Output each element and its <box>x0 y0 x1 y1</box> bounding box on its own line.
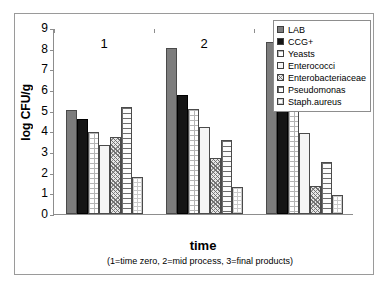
legend-swatch-enterobacteriaceae <box>277 74 284 81</box>
legend-swatch-pseudomonas <box>277 86 284 93</box>
legend-item-ccg[interactable]: CCG+ <box>277 36 366 47</box>
x-axis-caption: (1=time zero, 2=mid process, 3=final pro… <box>35 256 365 266</box>
y-axis-tick-mark <box>50 215 54 216</box>
x-axis-tick-mark <box>54 29 55 33</box>
bar-pseudomonas-1[interactable] <box>121 107 132 214</box>
bar-enterobacteriaceae-2[interactable] <box>210 158 221 214</box>
y-axis-tick-label: 0 <box>41 207 48 221</box>
bar-lab-1[interactable] <box>66 110 77 214</box>
x-axis-title: time <box>53 238 353 253</box>
bar-yeasts-3[interactable] <box>288 95 299 214</box>
bar-staph-aureus-1[interactable] <box>132 177 143 214</box>
bar-enterococci-1[interactable] <box>99 145 110 214</box>
bar-enterobacteriaceae-3[interactable] <box>310 186 321 214</box>
x-axis-tick-label-2: 2 <box>200 36 207 51</box>
legend-label-staph-aureus: Staph.aureus <box>288 97 342 107</box>
bar-enterobacteriaceae-1[interactable] <box>110 137 121 215</box>
legend-label-pseudomonas: Pseudomonas <box>288 85 346 95</box>
legend-item-staph-aureus[interactable]: Staph.aureus <box>277 96 366 107</box>
y-axis-title: log CFU/g <box>19 84 35 141</box>
legend-swatch-lab <box>277 26 284 33</box>
y-axis-tick-label: 4 <box>41 124 48 138</box>
legend-label-enterobacteriaceae: Enterobacteriaceae <box>288 73 366 83</box>
bar-lab-2[interactable] <box>166 48 177 214</box>
bar-yeasts-1[interactable] <box>88 132 99 214</box>
bar-ccg-1[interactable] <box>77 119 88 214</box>
legend-label-enterococci: Enterococci <box>288 61 335 71</box>
y-axis-tick-label: 8 <box>41 42 48 56</box>
bar-pseudomonas-3[interactable] <box>321 162 332 214</box>
y-axis-tick-label: 5 <box>41 104 48 118</box>
x-axis-tick-label-1: 1 <box>100 36 107 51</box>
y-axis-tick-label: 2 <box>41 166 48 180</box>
bar-group-2 <box>166 29 243 214</box>
legend-swatch-staph-aureus <box>277 98 284 105</box>
legend-item-pseudomonas[interactable]: Pseudomonas <box>277 84 366 95</box>
bar-pseudomonas-2[interactable] <box>221 140 232 214</box>
legend-item-yeasts[interactable]: Yeasts <box>277 48 366 59</box>
legend-swatch-yeasts <box>277 50 284 57</box>
legend-label-lab: LAB <box>288 25 305 35</box>
chart-container: log CFU/g 0123456789 123 time (1=time ze… <box>14 13 374 275</box>
bar-ccg-2[interactable] <box>177 95 188 214</box>
bar-staph-aureus-3[interactable] <box>332 195 343 214</box>
legend-label-yeasts: Yeasts <box>288 49 315 59</box>
y-axis-tick-label: 1 <box>41 186 48 200</box>
bar-staph-aureus-2[interactable] <box>232 187 243 214</box>
y-axis-tick-label: 3 <box>41 145 48 159</box>
y-axis-tick-label: 7 <box>41 62 48 76</box>
x-axis-tick-mark <box>254 29 255 33</box>
legend: LABCCG+YeastsEnterococciEnterobacteriace… <box>273 20 371 112</box>
legend-item-enterococci[interactable]: Enterococci <box>277 60 366 71</box>
legend-item-lab[interactable]: LAB <box>277 24 366 35</box>
legend-label-ccg: CCG+ <box>288 37 313 47</box>
y-axis-tick-label: 6 <box>41 83 48 97</box>
bar-yeasts-2[interactable] <box>188 109 199 214</box>
bar-enterococci-2[interactable] <box>199 127 210 214</box>
bar-group-1 <box>66 29 143 214</box>
x-axis-tick-mark <box>154 29 155 33</box>
bar-enterococci-3[interactable] <box>299 133 310 214</box>
legend-item-enterobacteriaceae[interactable]: Enterobacteriaceae <box>277 72 366 83</box>
legend-swatch-ccg <box>277 38 284 45</box>
legend-swatch-enterococci <box>277 62 284 69</box>
y-axis-tick-label: 9 <box>41 21 48 35</box>
